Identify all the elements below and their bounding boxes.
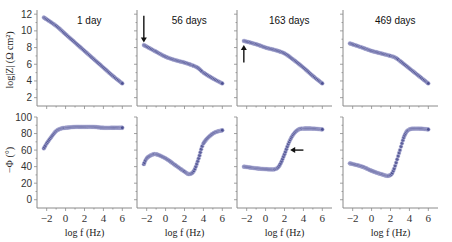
x-axis-title: log f (Hz) bbox=[265, 227, 304, 239]
x-tick-label: 2 bbox=[182, 212, 188, 224]
x-tick-label: 4 bbox=[201, 212, 207, 224]
y-tick-label: 100 bbox=[15, 112, 32, 123]
phase-series bbox=[242, 127, 324, 172]
data-point bbox=[426, 128, 430, 132]
panel-title: 469 days bbox=[375, 15, 416, 26]
eis-bode-figure: log|Z| (Ω cm²) −Φ (°) 246810120204060801… bbox=[0, 0, 452, 242]
x-tick-label: −2 bbox=[241, 212, 253, 224]
x-tick-label: 4 bbox=[301, 212, 307, 224]
data-point bbox=[220, 128, 224, 132]
y-tick-label: 20 bbox=[21, 178, 33, 189]
data-point bbox=[120, 126, 124, 130]
x-tick-label: 6 bbox=[120, 212, 126, 224]
data-point bbox=[398, 148, 402, 152]
arrow-head bbox=[141, 38, 147, 43]
x-tick-label: 0 bbox=[263, 212, 269, 224]
modulus-series bbox=[42, 16, 124, 86]
x-tick-label: 2 bbox=[388, 212, 394, 224]
y-tick-label: 6 bbox=[26, 59, 32, 70]
data-point bbox=[320, 128, 324, 132]
y-tick-label: 2 bbox=[26, 92, 32, 103]
y-tick-label: 80 bbox=[21, 128, 33, 139]
modulus-series bbox=[348, 41, 430, 85]
x-tick-label: 4 bbox=[101, 212, 107, 224]
panel-163-days: −20246log f (Hz)163 days bbox=[234, 10, 332, 239]
data-point bbox=[320, 82, 324, 86]
annotation-arrow bbox=[290, 147, 303, 153]
panel-title: 56 days bbox=[172, 15, 207, 26]
x-tick-label: 0 bbox=[163, 212, 169, 224]
data-point bbox=[220, 82, 224, 86]
y-tick-label: 0 bbox=[26, 194, 32, 205]
panel-1-day: 24681012020406080100−20246log f (Hz)1 da… bbox=[15, 9, 132, 239]
phase-series bbox=[348, 127, 430, 178]
x-tick-label: 0 bbox=[63, 212, 69, 224]
y-tick-label: 8 bbox=[26, 42, 32, 53]
x-tick-label: 2 bbox=[282, 212, 288, 224]
data-point bbox=[426, 82, 430, 86]
arrow-head bbox=[241, 45, 247, 50]
x-tick-label: 0 bbox=[369, 212, 375, 224]
x-tick-label: −2 bbox=[347, 212, 359, 224]
y-tick-label: 10 bbox=[21, 25, 33, 36]
annotation-arrow bbox=[141, 16, 147, 43]
phase-plot: 020406080100−20246log f (Hz) bbox=[15, 112, 132, 240]
x-tick-label: 4 bbox=[407, 212, 413, 224]
x-tick-label: −2 bbox=[41, 212, 53, 224]
top-y-axis-title: log|Z| (Ω cm²) bbox=[4, 31, 16, 88]
panel-56-days: −20246log f (Hz)56 days bbox=[134, 10, 232, 239]
x-axis-title: log f (Hz) bbox=[371, 227, 410, 239]
y-tick-label: 40 bbox=[21, 161, 33, 172]
phase-series bbox=[42, 125, 124, 150]
phase-plot: −20246log f (Hz) bbox=[134, 117, 232, 239]
y-tick-label: 60 bbox=[21, 145, 33, 156]
data-point bbox=[120, 82, 124, 86]
x-tick-label: 6 bbox=[320, 212, 326, 224]
panel-title: 163 days bbox=[269, 15, 310, 26]
phase-plot: −20246log f (Hz) bbox=[234, 117, 332, 239]
x-tick-label: 6 bbox=[426, 212, 432, 224]
phase-plot: −20246log f (Hz) bbox=[340, 117, 438, 239]
x-axis-title: log f (Hz) bbox=[165, 227, 204, 239]
x-tick-label: 6 bbox=[220, 212, 226, 224]
modulus-series bbox=[242, 39, 324, 85]
panel-title: 1 day bbox=[77, 15, 101, 26]
panel-469-days: −20246log f (Hz)469 days bbox=[340, 10, 438, 239]
x-axis-title: log f (Hz) bbox=[65, 227, 104, 239]
y-tick-label: 12 bbox=[21, 9, 33, 20]
modulus-series bbox=[142, 43, 224, 85]
y-tick-label: 4 bbox=[26, 75, 32, 86]
bottom-y-axis-title: −Φ (°) bbox=[4, 147, 16, 173]
phase-series bbox=[142, 128, 224, 176]
arrow-head bbox=[290, 147, 295, 153]
x-tick-label: 2 bbox=[82, 212, 88, 224]
annotation-arrow bbox=[241, 45, 247, 63]
x-tick-label: −2 bbox=[141, 212, 153, 224]
